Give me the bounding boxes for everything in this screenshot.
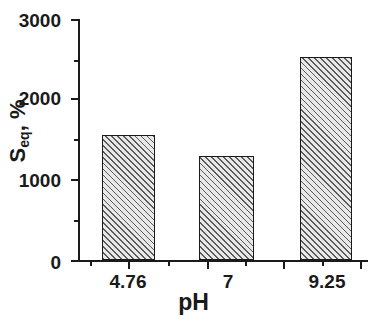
bar-ph-9.25 [300,57,352,260]
x-tick-minor-4 [322,262,324,266]
x-tick-major-9.25 [360,262,362,269]
y-tick-2000 [71,98,78,100]
x-tick-label-9.25: 9.25 [309,272,346,291]
y-axis-line [78,19,80,262]
x-tick-minor-3 [245,262,247,266]
plot-area [78,19,368,262]
y-tick-1000 [71,179,78,181]
y-axis-title-main: S [5,148,30,163]
y-axis-title-subscript: eq [16,131,32,147]
x-tick-label-7: 7 [223,272,234,291]
bar-chart-figure: 3000 2000 1000 0 Seq, % 4.76 7 [0,0,387,321]
bar-ph-4.76 [102,135,155,260]
x-axis-line [78,260,368,262]
x-tick-major-4.76 [128,262,130,269]
y-axis-title-tail: , % [5,100,30,132]
x-tick-major-7 [283,262,285,269]
y-tick-label-0: 0 [50,253,61,272]
bar-ph-7 [199,156,254,260]
x-tick-major-mid [207,262,209,269]
y-axis-title-container: Seq, % [2,0,36,262]
y-axis-title: Seq, % [7,100,31,163]
y-tick-500 [74,220,78,222]
y-tick-2500 [74,60,78,62]
y-tick-3000 [71,19,78,21]
y-tick-1500 [74,139,78,141]
x-tick-label-4.76: 4.76 [110,272,147,291]
x-axis-title: pH [0,291,387,314]
x-tick-minor-2 [168,262,170,266]
x-tick-minor-1 [90,262,92,266]
y-tick-0 [71,260,78,262]
